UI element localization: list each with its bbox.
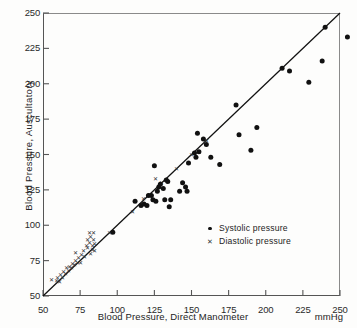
data-point-systolic <box>208 155 213 160</box>
plot-canvas: ✕✕✕✕✕✕✕✕✕✕✕✕✕✕✕✕✕✕✕✕✕✕✕✕✕✕✕✕✕✕✕✕✕✕✕✕✕✕✕✕… <box>0 0 357 328</box>
data-point-systolic <box>254 125 259 130</box>
data-point-systolic <box>234 102 239 107</box>
data-point-systolic <box>306 80 311 85</box>
data-point-systolic <box>153 199 158 204</box>
data-point-systolic <box>152 163 157 168</box>
data-point-systolic <box>168 197 173 202</box>
cross-icon: ✕ <box>204 236 216 246</box>
data-point-systolic <box>185 189 190 194</box>
data-point-systolic <box>133 199 138 204</box>
data-point-systolic <box>186 160 191 165</box>
legend: Systolic pressure ✕ Diastolic pressure <box>204 221 291 247</box>
data-point-systolic <box>192 151 197 156</box>
data-point-diastolic: ✕ <box>141 195 146 202</box>
data-point-systolic <box>323 25 328 30</box>
data-point-systolic <box>320 59 325 64</box>
y-tick-label-text: 250 <box>14 8 40 18</box>
data-point-diastolic: ✕ <box>92 240 97 247</box>
x-axis-title: Blood Pressure, Direct Manometer <box>43 311 303 322</box>
x-axis-units-label: mmHg <box>303 311 355 322</box>
data-point-diastolic: ✕ <box>174 165 179 172</box>
data-point-systolic <box>237 132 242 137</box>
data-point-systolic <box>196 149 201 154</box>
blood-pressure-scatter-figure: ✕✕✕✕✕✕✕✕✕✕✕✕✕✕✕✕✕✕✕✕✕✕✕✕✕✕✕✕✕✕✕✕✕✕✕✕✕✕✕✕… <box>0 0 357 328</box>
data-point-diastolic: ✕ <box>153 175 158 182</box>
legend-label-systolic: Systolic pressure <box>219 223 288 233</box>
data-point-systolic <box>161 186 166 191</box>
data-point-systolic <box>144 203 149 208</box>
y-axis-title: Blood Pressure, Auscultatory <box>23 46 34 246</box>
legend-item-diastolic: ✕ Diastolic pressure <box>204 234 291 247</box>
legend-item-systolic: Systolic pressure <box>204 221 291 234</box>
data-point-systolic <box>183 185 188 190</box>
data-point-diastolic: ✕ <box>92 247 97 254</box>
data-point-systolic <box>345 35 350 40</box>
data-point-systolic <box>162 197 167 202</box>
data-point-systolic <box>158 182 163 187</box>
data-point-systolic <box>201 136 206 141</box>
data-point-systolic <box>110 230 115 235</box>
data-point-systolic <box>287 69 292 74</box>
data-point-diastolic: ✕ <box>91 229 96 236</box>
data-point-systolic <box>167 204 172 209</box>
data-point-systolic <box>165 179 170 184</box>
filled-circle-icon <box>204 223 216 233</box>
data-point-systolic <box>248 148 253 153</box>
y-tick-label: 75 <box>12 256 40 266</box>
data-point-systolic <box>204 142 209 147</box>
legend-label-diastolic: Diastolic pressure <box>219 236 291 246</box>
data-point-diastolic: ✕ <box>130 208 135 215</box>
data-point-systolic <box>217 162 222 167</box>
data-point-diastolic: ✕ <box>82 253 87 260</box>
data-point-systolic <box>193 155 198 160</box>
diastolic-points: ✕✕✕✕✕✕✕✕✕✕✕✕✕✕✕✕✕✕✕✕✕✕✕✕✕✕✕✕✕✕✕✕✕✕✕✕✕✕✕✕… <box>49 137 208 286</box>
data-point-systolic <box>149 193 154 198</box>
data-point-systolic <box>155 189 160 194</box>
data-point-systolic <box>180 180 185 185</box>
systolic-points <box>110 25 350 235</box>
y-tick-label: 250 <box>12 8 40 18</box>
data-point-systolic <box>280 66 285 71</box>
data-point-systolic <box>177 189 182 194</box>
data-point-systolic <box>195 131 200 136</box>
y-tick-label-text: 75 <box>14 256 40 266</box>
